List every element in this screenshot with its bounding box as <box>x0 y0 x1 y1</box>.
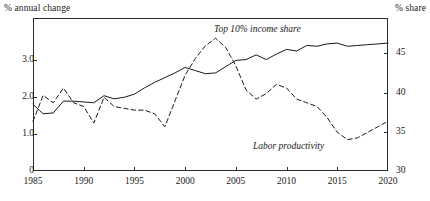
x-tick-mark <box>185 167 186 171</box>
x-tick-label: 1990 <box>74 176 93 186</box>
left-tick-label: 2.0 <box>22 91 34 101</box>
x-tick-label: 2020 <box>379 176 398 186</box>
x-tick-mark <box>337 167 338 171</box>
right-tick-label: 45 <box>396 47 406 57</box>
right-tick-label: 40 <box>396 87 406 97</box>
line-top-10-income-share <box>33 43 388 114</box>
x-tick-label: 2005 <box>226 176 245 186</box>
x-tick-label: 2015 <box>328 176 347 186</box>
right-tick-mark <box>384 53 388 54</box>
x-tick-mark <box>84 167 85 171</box>
left-tick-mark <box>33 134 37 135</box>
series-label-top-10-income-share: Top 10% income share <box>214 24 301 34</box>
x-tick-mark <box>287 167 288 171</box>
right-tick-label: 35 <box>396 126 406 136</box>
left-tick-label: 0 <box>29 165 34 175</box>
series-label-labor-productivity: Labor productivity <box>253 141 324 151</box>
left-tick-label: 1.0 <box>22 128 34 138</box>
x-tick-mark <box>236 167 237 171</box>
x-tick-label: 2000 <box>176 176 195 186</box>
left-tick-mark <box>33 97 37 98</box>
right-tick-label: 30 <box>396 165 406 175</box>
left-tick-label: 3.0 <box>22 54 34 64</box>
chart-figure: % annual change % share 01.02.03.0 30354… <box>0 0 430 201</box>
right-tick-mark <box>384 93 388 94</box>
x-tick-label: 1985 <box>24 176 43 186</box>
x-tick-mark <box>134 167 135 171</box>
left-tick-mark <box>33 60 37 61</box>
x-tick-label: 2010 <box>277 176 296 186</box>
x-tick-label: 1995 <box>125 176 144 186</box>
right-tick-mark <box>384 132 388 133</box>
line-labor-productivity <box>33 38 388 139</box>
